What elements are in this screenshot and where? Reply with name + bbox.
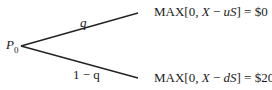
- up-payoff-minus: −: [210, 4, 224, 19]
- down-payoff-label: MAX[0, X − dS] = $20: [154, 71, 272, 84]
- down-payoff-var: X: [202, 70, 210, 85]
- root-subscript: 0: [14, 45, 19, 55]
- up-payoff-var: X: [202, 4, 210, 19]
- up-payoff-suffix: ] = $0: [236, 4, 267, 19]
- down-payoff-minus: −: [210, 70, 224, 85]
- up-payoff-factor: uS: [223, 4, 236, 19]
- down-payoff-suffix: ] = $20: [236, 70, 272, 85]
- down-payoff-factor: dS: [223, 70, 236, 85]
- down-probability-label: 1 − q: [73, 68, 100, 81]
- down-payoff-prefix: MAX[0,: [154, 70, 202, 85]
- up-probability-label: q: [80, 16, 87, 29]
- up-payoff-prefix: MAX[0,: [154, 4, 202, 19]
- up-payoff-label: MAX[0, X − uS] = $0: [154, 5, 268, 18]
- root-symbol: P: [6, 37, 14, 52]
- down-probability-text: 1 − q: [73, 67, 100, 82]
- root-node-label: P0: [6, 38, 18, 55]
